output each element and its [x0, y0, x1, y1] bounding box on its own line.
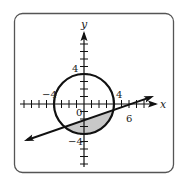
tick-label-x-4: 4	[116, 89, 122, 100]
origin-label: 0	[76, 107, 82, 118]
tick-label-x-neg4: −4	[42, 89, 57, 100]
graph-figure: y x 4 −4 4 0 6 −4	[0, 0, 182, 177]
tick-label-y-4: 4	[72, 63, 78, 74]
tick-label-x-6: 6	[126, 113, 132, 124]
x-axis-label: x	[160, 98, 167, 111]
graph-frame	[15, 14, 174, 173]
y-axis-label: y	[80, 18, 88, 31]
tick-label-y-neg4: −4	[68, 136, 83, 147]
